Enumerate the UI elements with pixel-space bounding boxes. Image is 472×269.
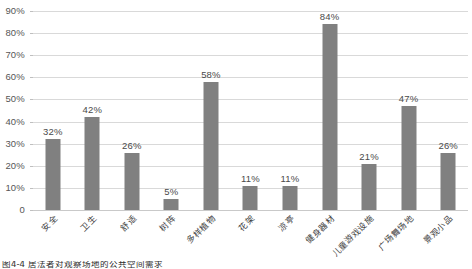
y-axis-tick-label: 50% <box>0 94 25 104</box>
bar-value-label: 26% <box>122 141 142 151</box>
category-label-slot: 景观小品 <box>428 212 468 259</box>
y-axis-tick-mark <box>30 210 33 211</box>
bar-value-label: 32% <box>43 127 63 137</box>
y-axis-tick-label: 30% <box>0 139 25 149</box>
bar[interactable] <box>362 164 377 210</box>
bars-layer: 32%42%26%5%58%11%11%84%21%47%26% <box>33 11 468 210</box>
bar-value-label: 47% <box>399 94 419 104</box>
bar-group: 84% <box>310 11 350 210</box>
category-axis-label: 卫生 <box>80 214 99 233</box>
y-axis-tick-label: 10% <box>0 183 25 193</box>
bar-group: 11% <box>270 11 310 210</box>
bar-value-label: 42% <box>82 105 102 115</box>
bar[interactable] <box>441 153 456 210</box>
figure-caption: 图4-4 居法者对观察场地的公共空间需求 <box>0 261 472 269</box>
bar[interactable] <box>203 82 218 210</box>
category-axis-label: 凉亭 <box>277 214 296 233</box>
bar-value-label: 26% <box>438 141 458 151</box>
category-label-slot: 卫生 <box>73 212 113 259</box>
bar-value-label: 11% <box>241 174 260 184</box>
category-axis-label: 花架 <box>238 214 257 233</box>
bar[interactable] <box>401 106 416 210</box>
category-label-slot: 舒适 <box>112 212 152 259</box>
bar-value-label: 11% <box>281 174 300 184</box>
bar[interactable] <box>124 153 139 210</box>
category-label-slot: 多样植物 <box>191 212 231 259</box>
y-axis-tick-label: 70% <box>0 50 25 60</box>
y-axis-tick-label: 20% <box>0 161 25 171</box>
bar-group: 47% <box>389 11 429 210</box>
bar-group: 42% <box>73 11 113 210</box>
bar-value-label: 84% <box>320 12 340 22</box>
axis-baseline <box>33 210 468 211</box>
bar[interactable] <box>164 199 179 210</box>
bar[interactable] <box>283 186 298 210</box>
bar-group: 5% <box>152 11 192 210</box>
category-axis-label: 安全 <box>40 214 59 233</box>
bar-value-label: 21% <box>359 152 379 162</box>
bar[interactable] <box>322 24 337 210</box>
bar[interactable] <box>243 186 258 210</box>
bar[interactable] <box>45 139 60 210</box>
bar-group: 21% <box>349 11 389 210</box>
category-label-slot: 树阵 <box>152 212 192 259</box>
bar-group: 11% <box>231 11 271 210</box>
category-label-slot: 广场舞场地 <box>389 212 429 259</box>
bar-value-label: 58% <box>201 70 221 80</box>
category-axis-label: 舒适 <box>119 214 138 233</box>
bar[interactable] <box>85 117 100 210</box>
category-label-slot: 凉亭 <box>270 212 310 259</box>
category-axis-label: 健身器材 <box>304 214 336 246</box>
bar-value-label: 5% <box>164 187 178 197</box>
category-axis-label: 树阵 <box>159 214 178 233</box>
category-axis-label: 景观小品 <box>423 214 455 246</box>
y-axis-tick-label: 90% <box>0 6 25 16</box>
category-axis: 安全卫生舒适树阵多样植物花架凉亭健身器材儿童游戏设施广场舞场地景观小品 <box>33 212 468 259</box>
y-axis-tick-label: 60% <box>0 72 25 82</box>
bar-chart: 010%20%30%40%50%60%70%80%90% 32%42%26%5%… <box>0 0 472 269</box>
category-label-slot: 安全 <box>33 212 73 259</box>
bar-group: 58% <box>191 11 231 210</box>
category-axis-label: 多样植物 <box>185 214 217 246</box>
y-axis-tick-label: 80% <box>0 28 25 38</box>
bar-group: 32% <box>33 11 73 210</box>
bar-group: 26% <box>428 11 468 210</box>
figure-caption-text: 图4-4 居法者对观察场地的公共空间需求 <box>2 261 163 269</box>
bar-group: 26% <box>112 11 152 210</box>
y-axis-tick-label: 40% <box>0 117 25 127</box>
category-label-slot: 花架 <box>231 212 271 259</box>
y-axis-tick-label: 0 <box>0 205 25 215</box>
